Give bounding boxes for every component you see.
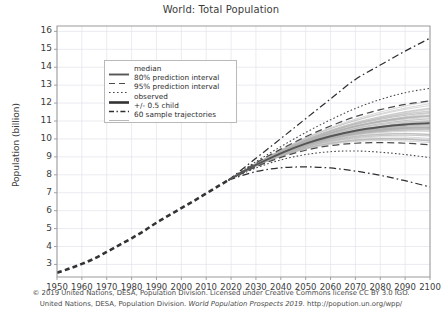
legend-item-label: +/- 0.5 child — [134, 101, 179, 110]
legend-key-icon — [108, 92, 130, 101]
y-tick-label: 11 — [24, 115, 52, 125]
y-tick-label: 3 — [24, 258, 52, 268]
legend-item-label: observed — [134, 92, 168, 101]
chart-footer: © 2019 United Nations, DESA, Population … — [0, 288, 442, 310]
legend-item-label: 60 sample trajectories — [134, 110, 216, 119]
legend-item-thick-dashed: observed — [108, 92, 232, 101]
y-tick-label: 5 — [24, 223, 52, 233]
chart-figure: World: Total Population Population (bill… — [0, 0, 442, 324]
legend-item-thin-gray: 60 sample trajectories — [108, 110, 232, 119]
citation-url: http://popution.un.org/wpp/ — [305, 300, 402, 308]
chart-legend: median80% prediction interval95% predict… — [104, 60, 237, 123]
y-tick-label: 16 — [24, 25, 52, 35]
legend-key-icon — [108, 73, 130, 82]
legend-item-label: 95% prediction interval — [134, 82, 219, 91]
y-tick-label: 14 — [24, 61, 52, 71]
citation-prefix: United Nations, DESA, Population Divisio… — [40, 300, 189, 308]
legend-item-dashed: 80% prediction interval — [108, 73, 232, 82]
y-tick-label: 12 — [24, 97, 52, 107]
y-tick-label: 13 — [24, 79, 52, 89]
legend-item-label: 80% prediction interval — [134, 73, 219, 82]
y-tick-label: 6 — [24, 205, 52, 215]
y-tick-label: 4 — [24, 241, 52, 251]
legend-key-icon — [108, 82, 130, 91]
legend-key-icon — [108, 101, 130, 110]
legend-item-solid: median — [108, 64, 232, 73]
y-tick-label: 10 — [24, 133, 52, 143]
footer-line-copyright: © 2019 United Nations, DESA, Population … — [0, 288, 442, 299]
legend-key-icon — [108, 64, 130, 73]
legend-item-label: median — [134, 64, 161, 73]
y-tick-label: 9 — [24, 151, 52, 161]
legend-item-dash-dot: +/- 0.5 child — [108, 101, 232, 110]
legend-item-dotted: 95% prediction interval — [108, 82, 232, 91]
legend-key-icon — [108, 110, 130, 119]
y-tick-label: 15 — [24, 43, 52, 53]
plot-canvas — [0, 0, 442, 324]
footer-line-citation: United Nations, DESA, Population Divisio… — [0, 299, 442, 310]
citation-title: World Population Prospects 2019. — [189, 300, 305, 308]
y-tick-label: 8 — [24, 169, 52, 179]
y-tick-label: 7 — [24, 187, 52, 197]
